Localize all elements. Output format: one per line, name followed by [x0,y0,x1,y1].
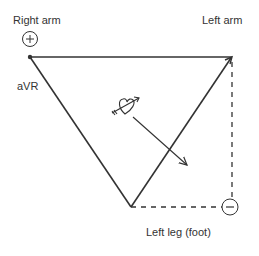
heart-with-arrow-icon [112,97,139,115]
right-arm-node [28,55,32,59]
vector-arrow-icon [133,117,187,165]
triangle-lines [30,57,232,207]
left-arm-lead-line [131,58,231,207]
right-arm-label: Right arm [13,14,61,26]
negative-electrode-icon [222,199,238,215]
positive-electrode-icon [23,32,38,47]
avr-label: aVR [17,80,38,92]
diagram-canvas [0,0,259,256]
left-arm-label: Left arm [202,14,242,26]
left-leg-label: Left leg (foot) [146,226,211,238]
avr-lead-line [30,57,131,207]
